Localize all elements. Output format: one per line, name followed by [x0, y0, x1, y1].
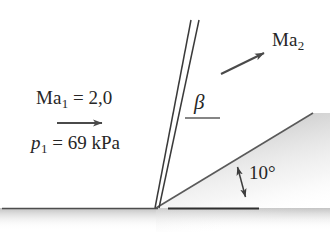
downstream-mach-symbol: Ma	[272, 29, 297, 50]
oblique-shock-diagram: Ma1 = 2,0 p1 = 69 kPa Ma2 β 10°	[0, 0, 330, 232]
wedge-angle-value: 10	[249, 162, 268, 183]
upstream-pressure-unit: kPa	[91, 132, 120, 153]
downstream-flow-arrow	[221, 53, 264, 74]
upstream-pressure-equals: =	[52, 132, 63, 153]
upstream-mach-subscript: 1	[61, 96, 68, 111]
upstream-mach-equals: =	[73, 87, 84, 108]
wedge-angle-label: 10°	[249, 163, 276, 182]
upstream-pressure-subscript: 1	[41, 141, 48, 156]
upstream-mach-symbol: Ma	[36, 87, 61, 108]
shock-wave-line-right	[159, 20, 199, 208]
wedge-shading	[156, 113, 330, 232]
degree-icon: °	[268, 162, 276, 183]
downstream-mach-label: Ma2	[272, 30, 304, 53]
upstream-pressure-symbol: p	[31, 132, 41, 153]
downstream-mach-subscript: 2	[297, 38, 304, 53]
upstream-mach-value: 2,0	[89, 87, 113, 108]
shock-wave-line-left	[155, 20, 191, 208]
upstream-pressure-label: p1 = 69 kPa	[31, 133, 120, 156]
upstream-mach-label: Ma1 = 2,0	[36, 88, 112, 111]
shock-angle-label: β	[194, 92, 204, 113]
upstream-pressure-value: 69	[68, 132, 87, 153]
